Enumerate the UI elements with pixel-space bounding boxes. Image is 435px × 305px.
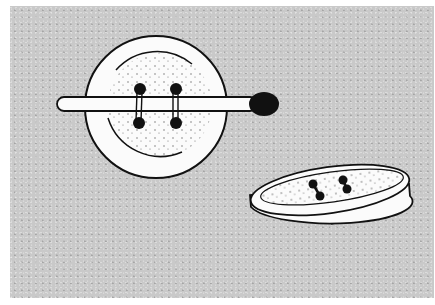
illustration xyxy=(0,0,435,305)
tilted-button xyxy=(248,156,413,224)
match-head-icon xyxy=(249,92,279,116)
